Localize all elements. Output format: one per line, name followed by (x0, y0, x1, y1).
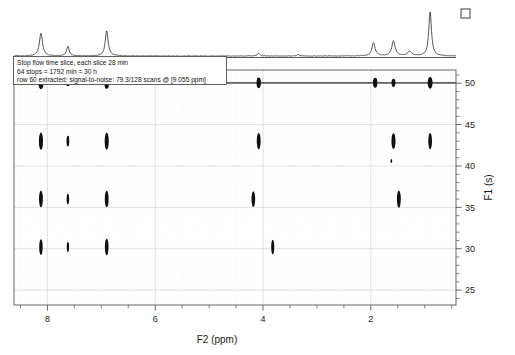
peak-blob (67, 242, 69, 252)
peak-blob (373, 78, 377, 88)
annotation-box: Stop flow time slice, each slice 28 min6… (14, 57, 227, 85)
x-tick-label: 4 (261, 314, 266, 324)
peak-blob (257, 133, 261, 150)
x-axis-ticks: 8642 (20, 305, 451, 324)
y-axis-title: F1 (s) (483, 174, 494, 200)
peak-blob (391, 133, 395, 149)
minor-gridlines (14, 70, 456, 305)
x-tick-label: 2 (368, 314, 373, 324)
peak-blob (39, 132, 43, 149)
peak-blob (39, 191, 43, 208)
peak-blob (271, 240, 274, 255)
peak-series-4 (390, 159, 392, 163)
plot-canvas: 8642504540353025F2 (ppm)F1 (s)Stop flow … (0, 0, 515, 355)
plot-frame (14, 70, 456, 305)
annotation-line1: Stop flow time slice, each slice 28 min (17, 59, 128, 67)
peak-blob (105, 191, 109, 208)
open-square-marker (461, 9, 470, 18)
y-tick-label: 30 (465, 244, 475, 254)
y-tick-label: 35 (465, 203, 475, 213)
annotation-line3: row 60 extracted: signal-to-noise: 79.3/… (17, 76, 206, 84)
peak-blob (67, 194, 70, 205)
peak-blob (105, 132, 109, 149)
peak-blob (105, 239, 109, 256)
y-axis-ticks: 504540353025 (456, 75, 475, 298)
peak-blob (251, 191, 255, 207)
projection-path (14, 12, 456, 56)
peak-blob (428, 77, 433, 89)
y-tick-label: 50 (465, 78, 475, 88)
major-gridlines (14, 70, 456, 305)
peak-blob (390, 159, 392, 163)
peak-blob (67, 136, 70, 147)
annotation-line2: 64 stops = 1792 min = 30 h (17, 68, 97, 76)
y-tick-label: 25 (465, 285, 475, 295)
nmr-2d-figure: 8642504540353025F2 (ppm)F1 (s)Stop flow … (0, 0, 515, 355)
peak-blob (257, 77, 261, 88)
x-axis-title: F2 (ppm) (197, 334, 238, 345)
peak-blob (428, 133, 432, 150)
x-tick-label: 8 (45, 314, 50, 324)
x-tick-label: 6 (153, 314, 158, 324)
y-tick-label: 40 (465, 161, 475, 171)
peak-blob (39, 239, 43, 255)
y-tick-label: 45 (465, 120, 475, 130)
peak-blob (397, 190, 401, 207)
peak-blob (392, 79, 396, 87)
f2-projection-trace (14, 12, 456, 57)
